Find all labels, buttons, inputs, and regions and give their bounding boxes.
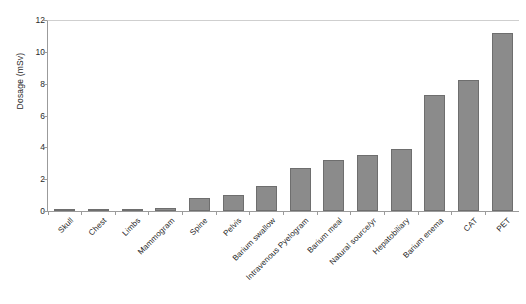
bar-slot [418, 20, 452, 211]
x-axis-tickmark [452, 211, 486, 215]
bar [492, 33, 513, 211]
bar-slot [452, 20, 486, 211]
bar-slot [48, 20, 82, 211]
x-axis-tickmark [317, 211, 351, 215]
y-axis-tick-label: 12 [0, 15, 45, 25]
x-axis-tickmark [283, 211, 317, 215]
bar-slot [115, 20, 149, 211]
bar [391, 149, 412, 211]
bar [323, 160, 344, 211]
x-axis-tickmark [418, 211, 452, 215]
x-axis-tickmarks [48, 211, 519, 215]
bar [424, 95, 445, 211]
y-axis-tick-label: 6 [0, 111, 45, 121]
bar [189, 198, 210, 211]
x-axis-tickmark [183, 211, 217, 215]
bar-series [48, 20, 519, 211]
x-axis-tickmark [351, 211, 385, 215]
bar-slot [216, 20, 250, 211]
x-axis-tickmark [115, 211, 149, 215]
bar-slot [317, 20, 351, 211]
x-axis-tick-label: Spine [189, 216, 210, 237]
x-axis-tickmark [384, 211, 418, 215]
y-axis-tick-label: 4 [0, 142, 45, 152]
x-axis-tick-label: CAT [461, 216, 478, 233]
y-axis-tick-label: 2 [0, 174, 45, 184]
bar-slot [183, 20, 217, 211]
bar-chart: Dosage (mSv) 024681012 SkullChestLimbsMa… [0, 0, 526, 304]
x-axis-tickmark [149, 211, 183, 215]
x-axis-tickmark [250, 211, 284, 215]
y-axis-tick-label: 10 [0, 47, 45, 57]
bar [458, 80, 479, 211]
bar [223, 195, 244, 211]
bar [256, 186, 277, 211]
bar-slot [485, 20, 519, 211]
x-axis-tick-label: PET [495, 216, 513, 234]
x-axis-tickmark [216, 211, 250, 215]
y-axis-tick-label: 0 [0, 206, 45, 216]
bar-slot [82, 20, 116, 211]
bar [290, 168, 311, 211]
x-axis-tickmark [48, 211, 82, 215]
y-axis-tick-label: 8 [0, 79, 45, 89]
bar-slot [384, 20, 418, 211]
x-axis-tickmark [485, 211, 519, 215]
bar-slot [149, 20, 183, 211]
bar-slot [283, 20, 317, 211]
x-axis-tickmark [82, 211, 116, 215]
bar-slot [351, 20, 385, 211]
x-axis-tick-label: Chest [87, 216, 109, 238]
bar [357, 155, 378, 211]
x-axis-tick-label: Intravenous Pyelogram [245, 216, 311, 282]
bar-slot [250, 20, 284, 211]
x-axis-tick-label: Limbs [121, 216, 143, 238]
x-axis-tick-label: Skull [56, 216, 75, 235]
x-axis-labels: SkullChestLimbsMammogramSpinePelvisBariu… [48, 216, 519, 304]
x-axis-tick-label: Pelvis [222, 216, 244, 238]
